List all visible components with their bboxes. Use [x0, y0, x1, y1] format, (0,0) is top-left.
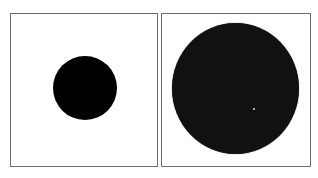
large-black-circle	[172, 23, 299, 154]
panel-right	[161, 13, 311, 167]
small-black-circle	[53, 56, 117, 120]
white-speck	[253, 108, 255, 110]
panel-left	[10, 13, 158, 167]
